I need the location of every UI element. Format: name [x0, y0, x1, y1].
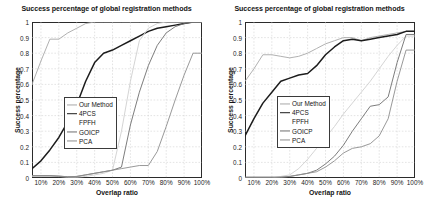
- legend-line-swatch: [280, 101, 290, 107]
- x-tick-label: 40%: [301, 179, 314, 186]
- y-tick-label: 0.6: [20, 81, 29, 88]
- legend-item-label: FPFH: [79, 118, 96, 127]
- series-line: [32, 22, 202, 84]
- series-line: [32, 22, 202, 177]
- y-tick-label: 1: [238, 19, 242, 26]
- legend-item-label: Our Method: [292, 99, 326, 108]
- y-tick-label: 0.9: [233, 34, 242, 41]
- y-tick-label: 0.6: [233, 81, 242, 88]
- legend-item-label: PCA: [79, 137, 92, 146]
- plot-area-right: [245, 22, 415, 178]
- series-line: [245, 31, 415, 136]
- legend-item-label: 4PCS: [79, 109, 96, 118]
- legend-item-label: GOICP: [292, 127, 313, 136]
- legend-item-label: PCA: [292, 136, 305, 145]
- legend-item[interactable]: 4PCS: [280, 108, 326, 117]
- y-tick-label: 0.3: [20, 128, 29, 135]
- legend-line-swatch: [67, 129, 77, 135]
- y-tick-label: 0.7: [233, 65, 242, 72]
- x-tick-label: 10%: [248, 179, 261, 186]
- legend-line-swatch: [280, 128, 290, 134]
- x-axis-label-right: Overlap ratio: [245, 189, 415, 196]
- y-tick-label: 0: [25, 175, 29, 182]
- y-tick-label: 0.5: [233, 97, 242, 104]
- x-tick-label: 60%: [337, 179, 350, 186]
- legend-item-label: Our Method: [79, 100, 113, 109]
- x-tick-label: 40%: [88, 179, 101, 186]
- y-tick-label: 0.2: [20, 143, 29, 150]
- x-tick-label: 90%: [178, 179, 191, 186]
- legend-line-swatch: [280, 137, 290, 143]
- series-line: [32, 53, 202, 177]
- legend-item[interactable]: PCA: [280, 136, 326, 145]
- y-tick-label: 0.3: [233, 128, 242, 135]
- legend-item[interactable]: Our Method: [280, 99, 326, 108]
- y-tick-label: 0: [238, 175, 242, 182]
- series-curves-right: [245, 22, 415, 178]
- y-axis-ticks-left: 00.10.20.30.40.50.60.70.80.91: [0, 22, 29, 178]
- x-tick-label: 80%: [160, 179, 173, 186]
- plot-area-left: [32, 22, 202, 178]
- x-tick-label: 70%: [142, 179, 155, 186]
- y-tick-label: 0.1: [20, 159, 29, 166]
- x-axis-label-left: Overlap ratio: [32, 189, 202, 196]
- x-tick-label: 100%: [194, 179, 210, 186]
- panel-title-left: Success percentage of global registratio…: [0, 5, 213, 13]
- legend-line-swatch: [67, 138, 77, 144]
- legend-item[interactable]: PCA: [67, 137, 113, 146]
- legend-line-swatch: [280, 119, 290, 125]
- series-curves-left: [32, 22, 202, 178]
- x-tick-label: 50%: [319, 179, 332, 186]
- figure-container: Success percentage of global registratio…: [0, 0, 426, 208]
- x-tick-label: 10%: [35, 179, 48, 186]
- legend-line-swatch: [67, 120, 77, 126]
- x-tick-label: 30%: [283, 179, 296, 186]
- y-axis-ticks-right: 00.10.20.30.40.50.60.70.80.91: [213, 22, 242, 178]
- legend-line-swatch: [280, 110, 290, 116]
- legend-right[interactable]: Our Method4PCSFPFHGOICPPCA: [277, 96, 330, 148]
- x-tick-label: 70%: [355, 179, 368, 186]
- x-tick-label: 90%: [391, 179, 404, 186]
- legend-item[interactable]: 4PCS: [67, 109, 113, 118]
- y-tick-label: 0.5: [20, 97, 29, 104]
- x-tick-label: 50%: [106, 179, 119, 186]
- y-tick-label: 1: [25, 19, 29, 26]
- y-tick-label: 0.8: [233, 50, 242, 57]
- legend-left[interactable]: Our Method4PCSFPFHGOICPPCA: [64, 97, 117, 149]
- series-line: [245, 31, 415, 81]
- x-tick-label: 60%: [124, 179, 137, 186]
- panel-title-right: Success percentage of global registratio…: [213, 5, 426, 13]
- legend-item[interactable]: Our Method: [67, 100, 113, 109]
- x-tick-label: 20%: [52, 179, 65, 186]
- y-tick-label: 0.4: [20, 112, 29, 119]
- legend-item[interactable]: FPFH: [67, 118, 113, 127]
- x-tick-label: 80%: [373, 179, 386, 186]
- y-tick-label: 0.1: [233, 159, 242, 166]
- y-tick-label: 0.2: [233, 143, 242, 150]
- legend-item-label: FPFH: [292, 117, 309, 126]
- legend-item[interactable]: GOICP: [280, 127, 326, 136]
- chart-panel-right: Success percentage of global registratio…: [213, 0, 426, 208]
- legend-line-swatch: [67, 102, 77, 108]
- series-line: [245, 34, 415, 177]
- x-tick-label: 30%: [70, 179, 83, 186]
- legend-line-swatch: [67, 111, 77, 117]
- legend-item-label: GOICP: [79, 128, 100, 137]
- legend-item[interactable]: FPFH: [280, 117, 326, 126]
- x-tick-label: 100%: [407, 179, 423, 186]
- y-tick-label: 0.8: [20, 50, 29, 57]
- series-line: [245, 36, 415, 178]
- legend-item-label: 4PCS: [292, 108, 309, 117]
- series-line: [32, 22, 202, 177]
- x-tick-label: 20%: [265, 179, 278, 186]
- y-tick-label: 0.9: [20, 34, 29, 41]
- series-line: [245, 50, 415, 177]
- legend-item[interactable]: GOICP: [67, 128, 113, 137]
- y-tick-label: 0.4: [233, 112, 242, 119]
- chart-panel-left: Success percentage of global registratio…: [0, 0, 213, 208]
- y-tick-label: 0.7: [20, 65, 29, 72]
